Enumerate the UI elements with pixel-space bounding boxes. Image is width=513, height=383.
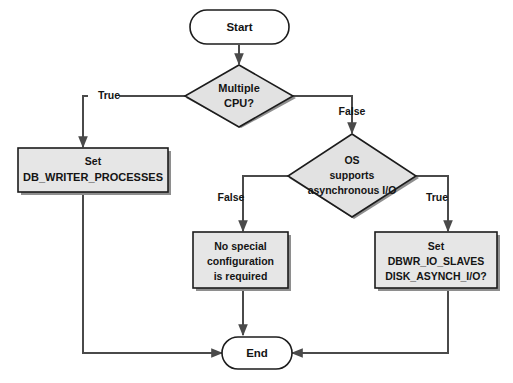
decision-cpu-line1: Multiple xyxy=(218,82,260,94)
edge-label-async-false: False xyxy=(218,191,245,203)
connector-cpu-true-to-dbwriter xyxy=(83,96,88,147)
process-dbwriter-line2: DB_WRITER_PROCESSES xyxy=(23,171,163,183)
node-decision-os-async-io[interactable]: OS supports asynchronous I/O xyxy=(288,134,419,219)
process-dbwriter-line1: Set xyxy=(85,155,102,167)
node-end[interactable]: End xyxy=(222,337,292,369)
node-process-no-special-configuration[interactable]: No special configuration is required xyxy=(193,232,291,291)
edge-label-async-true: True xyxy=(426,191,448,203)
decision-async-line3: asynchronous I/O xyxy=(308,184,397,196)
node-decision-multiple-cpu[interactable]: Multiple CPU? xyxy=(185,65,296,128)
process-nospecial-line3: is required xyxy=(214,270,268,282)
process-ioslaves-line3: DISK_ASYNCH_I/O? xyxy=(385,270,487,282)
end-label: End xyxy=(246,347,268,359)
connector-async-true-to-ioslaves xyxy=(416,176,448,231)
node-process-db-writer-processes[interactable]: Set DB_WRITER_PROCESSES xyxy=(18,148,171,195)
node-start[interactable]: Start xyxy=(190,10,289,44)
process-ioslaves-line1: Set xyxy=(428,240,445,252)
decision-cpu-line2: CPU? xyxy=(224,97,254,109)
edge-label-cpu-false: False xyxy=(339,105,366,117)
process-nospecial-line2: configuration xyxy=(207,255,274,267)
start-label: Start xyxy=(226,21,252,33)
decision-async-line1: OS xyxy=(344,154,359,166)
flowchart-svg: Start Multiple CPU? Set DB_WRITER_PROCES… xyxy=(0,0,513,383)
process-ioslaves-line2: DBWR_IO_SLAVES xyxy=(388,255,485,267)
flowchart-canvas: Start Multiple CPU? Set DB_WRITER_PROCES… xyxy=(0,0,513,383)
process-nospecial-line1: No special xyxy=(214,240,267,252)
connector-ioslaves-to-end xyxy=(292,288,448,353)
node-process-dbwr-io-slaves[interactable]: Set DBWR_IO_SLAVES DISK_ASYNCH_I/O? xyxy=(375,232,500,291)
connector-async-false-to-nospecial xyxy=(243,176,288,231)
edge-label-cpu-true: True xyxy=(98,89,120,101)
decision-async-line2: supports xyxy=(330,169,375,181)
